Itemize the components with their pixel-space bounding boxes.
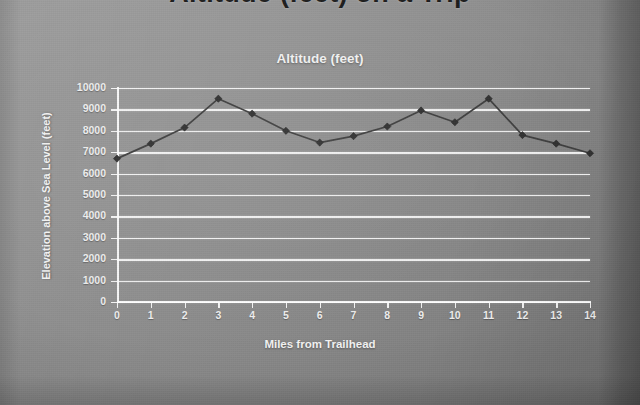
data-point-marker	[249, 110, 256, 117]
data-point-marker	[384, 123, 391, 130]
data-point-marker	[553, 140, 560, 147]
data-point-marker	[586, 150, 593, 157]
series-markers	[113, 95, 593, 162]
data-point-marker	[113, 155, 120, 162]
data-point-marker	[316, 139, 323, 146]
data-point-marker	[147, 140, 154, 147]
series-altitude	[0, 0, 640, 405]
series-line	[117, 99, 590, 159]
data-point-marker	[417, 107, 424, 114]
data-point-marker	[350, 133, 357, 140]
data-point-marker	[282, 127, 289, 134]
screenshot-canvas: Altitude (feet) on a Trip Altitude (feet…	[0, 0, 640, 405]
